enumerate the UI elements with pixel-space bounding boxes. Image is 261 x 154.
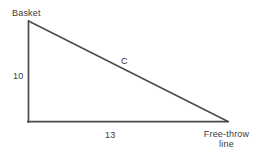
- free-throw-line-label: Free-throw line: [198, 129, 255, 149]
- free-throw-line-label-line2: line: [198, 139, 255, 149]
- horizontal-leg-length-label: 13: [105, 130, 115, 140]
- triangle-diagram: Basket 10 13 C Free-throw line: [0, 0, 261, 154]
- free-throw-line-label-line1: Free-throw: [198, 129, 255, 139]
- hypotenuse-label: C: [121, 56, 128, 66]
- vertical-leg-length-label: 10: [13, 71, 23, 81]
- basket-label: Basket: [12, 8, 41, 18]
- hypotenuse-line: [29, 21, 229, 122]
